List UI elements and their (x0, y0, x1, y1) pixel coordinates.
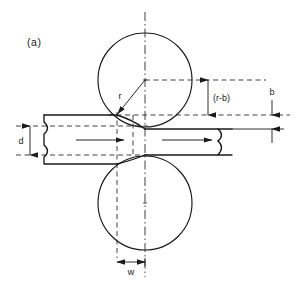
r-minus-b-label: (r-b) (213, 93, 230, 103)
strip-exit-top-edge (145, 129, 222, 141)
w-label: w (127, 267, 135, 277)
strip-exit-bottom-edge (145, 141, 222, 155)
strip-bottom-contact-arc (117, 155, 145, 164)
b-label: b (269, 87, 274, 97)
panel-label: (a) (27, 36, 42, 48)
d-label: d (18, 136, 23, 146)
rolling-process-diagram: r (r-b) b d w (a) (0, 0, 298, 289)
strip-entry-break-edge (44, 115, 117, 164)
figure-root: r (r-b) b d w (a) (0, 0, 298, 289)
radius-leader-line (118, 80, 146, 114)
radius-label: r (119, 91, 122, 101)
